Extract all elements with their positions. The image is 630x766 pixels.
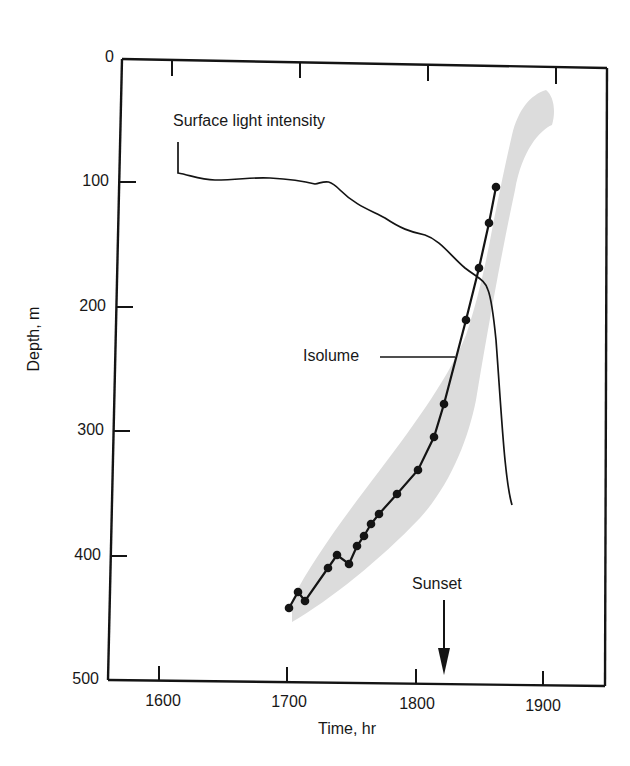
y-tick-300: 300 — [44, 421, 104, 439]
x-tick-1900: 1900 — [513, 697, 573, 715]
surface-light-label: Surface light intensity — [173, 112, 325, 130]
plot-frame — [108, 59, 607, 686]
y-tick-400: 400 — [41, 546, 101, 564]
sunset-arrow-icon — [438, 648, 450, 675]
sunset-label: Sunset — [412, 575, 462, 593]
isolume-label: Isolume — [303, 347, 359, 365]
x-tick-1800: 1800 — [387, 695, 447, 713]
x-tick-1600: 1600 — [133, 692, 193, 710]
y-axis-title: Depth, m — [25, 299, 43, 379]
x-tick-1700: 1700 — [259, 693, 319, 711]
y-tick-0: 0 — [54, 48, 114, 66]
y-tick-200: 200 — [46, 297, 106, 315]
x-axis-title: Time, hr — [318, 720, 376, 738]
y-tick-500: 500 — [39, 670, 99, 688]
y-tick-100: 100 — [49, 172, 109, 190]
surface-light-line — [178, 142, 512, 505]
